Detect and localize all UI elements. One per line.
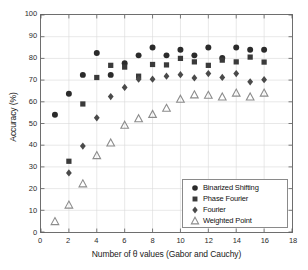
x-tick-label: 6 [114, 236, 134, 245]
y-tick-label: 50 [3, 120, 37, 128]
circle-marker-icon [187, 183, 203, 193]
data-point [79, 180, 87, 187]
data-point [164, 62, 169, 67]
legend-item-label: Weighted Point [203, 216, 252, 225]
data-point [248, 54, 253, 59]
data-point [247, 47, 253, 53]
square-glyph [193, 196, 198, 201]
data-point [232, 89, 240, 96]
x-tick-label: 16 [255, 236, 275, 245]
data-point [191, 52, 197, 58]
data-point [65, 201, 73, 208]
y-tick-label: 80 [3, 54, 37, 62]
data-point [94, 50, 100, 56]
data-point [80, 142, 86, 149]
data-point [205, 91, 213, 98]
data-point [94, 75, 99, 80]
data-point [218, 93, 226, 100]
y-tick-label: 90 [3, 32, 37, 40]
square-marker-icon [187, 194, 203, 204]
y-tick-label: 20 [3, 185, 37, 193]
data-point [220, 58, 225, 63]
data-point [136, 52, 142, 58]
data-point [206, 63, 211, 68]
data-point [80, 72, 86, 78]
data-point [192, 59, 197, 64]
legend-item-fourier[interactable]: Fourier [183, 204, 287, 215]
data-point [122, 64, 127, 69]
legend-item-binarized-shifting[interactable]: Binarized Shifting [183, 182, 287, 193]
data-point [66, 91, 72, 97]
y-axis-tick-labels: 0102030405060708090100 [0, 14, 37, 233]
data-point [150, 76, 156, 83]
y-tick-label: 60 [3, 98, 37, 106]
x-axis-label: Number of θ values (Gabor and Cauchy) [40, 249, 293, 259]
x-tick-label: 14 [227, 236, 247, 245]
scatter-chart-figure: Accuracy (%) 0102030405060708090100 0246… [0, 0, 308, 270]
data-point [260, 89, 268, 96]
data-point [191, 91, 199, 98]
data-point [178, 56, 183, 61]
data-point [108, 63, 113, 68]
x-tick-label: 8 [142, 236, 162, 245]
circle-glyph [192, 185, 198, 191]
x-tick-label: 2 [58, 236, 78, 245]
data-point [94, 114, 100, 121]
y-tick-label: 100 [3, 10, 37, 18]
triangle-marker-icon [187, 216, 203, 226]
data-point [219, 74, 225, 81]
data-point [205, 45, 211, 51]
data-point [178, 71, 184, 78]
data-point [51, 218, 59, 225]
legend-item-phase-fourier[interactable]: Phase Fourier [183, 193, 287, 204]
data-point [261, 59, 266, 64]
data-point [234, 59, 239, 64]
data-point [93, 152, 101, 159]
data-point [150, 45, 156, 51]
series-binarized-shifting [52, 45, 267, 118]
data-point [191, 74, 197, 81]
chart-legend: Binarized ShiftingPhase FourierFourierWe… [182, 179, 288, 228]
y-tick-label: 30 [3, 163, 37, 171]
legend-item-label: Phase Fourier [203, 194, 248, 203]
x-tick-label: 4 [86, 236, 106, 245]
x-tick-label: 0 [30, 236, 50, 245]
x-axis-tick-labels: 024681012141618 [40, 236, 293, 248]
data-point [164, 73, 170, 80]
data-point [177, 47, 183, 53]
data-point [205, 70, 211, 77]
data-point [66, 169, 72, 176]
data-point [121, 121, 129, 128]
x-tick-label: 12 [199, 236, 219, 245]
data-point [163, 104, 171, 111]
data-point [108, 93, 114, 100]
data-point [261, 76, 267, 83]
legend-item-label: Fourier [203, 205, 226, 214]
x-tick-label: 10 [171, 236, 191, 245]
data-point [149, 110, 157, 117]
diamond-marker-icon [187, 205, 203, 215]
data-point [261, 47, 267, 53]
data-point [150, 62, 155, 67]
data-point [177, 95, 185, 102]
data-point [122, 84, 128, 91]
legend-item-weighted-point[interactable]: Weighted Point [183, 215, 287, 226]
data-point [107, 139, 115, 146]
y-tick-label: 40 [3, 141, 37, 149]
data-point [233, 45, 239, 51]
x-tick-label: 18 [283, 236, 303, 245]
series-fourier [66, 70, 267, 177]
data-point [135, 115, 143, 122]
triangle-glyph [191, 217, 198, 224]
y-tick-label: 10 [3, 207, 37, 215]
data-point [80, 101, 85, 106]
legend-item-label: Binarized Shifting [203, 183, 259, 192]
data-point [247, 78, 253, 85]
data-point [246, 93, 254, 100]
data-point [108, 72, 114, 78]
data-point [66, 159, 71, 164]
y-tick-label: 70 [3, 76, 37, 84]
data-point [233, 70, 239, 77]
data-point [52, 112, 58, 118]
diamond-glyph [192, 206, 197, 213]
